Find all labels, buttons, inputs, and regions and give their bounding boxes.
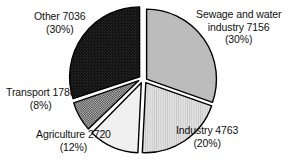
pie-chart-figure: Sewage and water industry 7156 (30%) Oth… — [0, 0, 290, 164]
slice-label-industry: Industry 4763 (20%) — [176, 124, 238, 149]
slice-label-other-line1: Other 7036 — [34, 10, 86, 23]
slice-label-sewage-line1: Sewage and water — [196, 8, 281, 21]
slice-label-other: Other 7036 (30%) — [34, 10, 86, 35]
slice-label-sewage-line2: industry 7156 — [196, 21, 281, 34]
slice-label-transport-line1: Transport 1788 — [6, 86, 75, 99]
slice-label-agriculture-line2: (12%) — [36, 141, 111, 154]
slice-label-agriculture-line1: Agriculture 2720 — [36, 128, 111, 141]
slice-label-industry-line1: Industry 4763 — [176, 124, 238, 137]
slice-label-transport: Transport 1788 (8%) — [6, 86, 75, 111]
slice-label-transport-line2: (8%) — [6, 99, 75, 112]
slice-label-industry-line2: (20%) — [176, 137, 238, 150]
slice-label-other-line2: (30%) — [34, 23, 86, 36]
slice-label-sewage-line3: (30%) — [196, 33, 281, 46]
slice-label-agriculture: Agriculture 2720 (12%) — [36, 128, 111, 153]
slice-label-sewage: Sewage and water industry 7156 (30%) — [196, 8, 281, 46]
